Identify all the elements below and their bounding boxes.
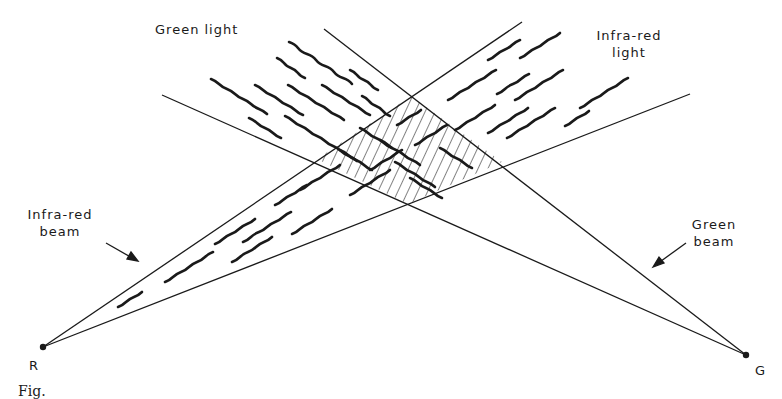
- infrared-beam-arrow: [106, 243, 138, 261]
- infrared-beam-label-line2: beam: [14, 223, 106, 240]
- green-beam: [162, 29, 746, 355]
- green-light-label: Green light: [155, 21, 238, 38]
- infrared-light-label-line2: light: [584, 44, 674, 61]
- source-g-dot: [743, 352, 749, 358]
- green-beam-arrow: [653, 243, 686, 267]
- green-beam-label-line2: beam: [683, 233, 745, 250]
- source-g-label: G: [755, 362, 766, 379]
- green-beam-label: Green beam: [683, 216, 745, 250]
- infrared-light-waves: [118, 33, 628, 307]
- infrared-beam-label-line1: Infra-red: [14, 206, 106, 223]
- source-r-label: R: [29, 357, 39, 374]
- infrared-light-label-line1: Infra-red: [584, 27, 674, 44]
- overlap-region: [317, 96, 502, 204]
- green-beam-label-line1: Green: [683, 216, 745, 233]
- figure-caption: Fig.: [18, 383, 46, 399]
- infrared-beam-label: Infra-red beam: [14, 206, 106, 240]
- infrared-light-label: Infra-red light: [584, 27, 674, 61]
- source-r-dot: [40, 344, 46, 350]
